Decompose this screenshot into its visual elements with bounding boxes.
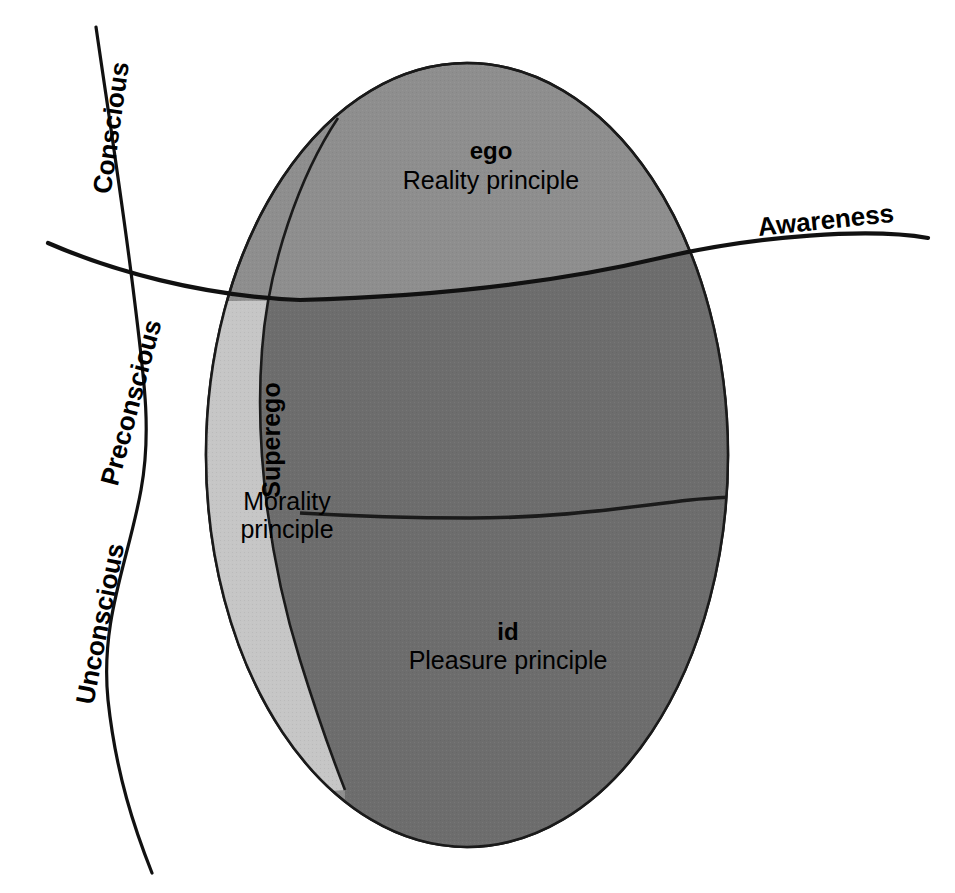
psyche-diagram-root: Conscious Preconscious Unconscious Aware… <box>0 0 955 893</box>
label-ego-name: ego <box>470 137 513 164</box>
label-id-name: id <box>497 618 518 645</box>
label-ego-principle: Reality principle <box>403 166 579 194</box>
label-superego-name: Superego <box>257 382 285 497</box>
label-unconscious: Unconscious <box>70 541 131 707</box>
label-id-principle: Pleasure principle <box>409 646 608 674</box>
diagram-canvas: Conscious Preconscious Unconscious Aware… <box>0 0 955 893</box>
label-conscious: Conscious <box>87 60 135 196</box>
label-superego-principle-line2: principle <box>240 515 333 543</box>
label-preconscious: Preconscious <box>94 316 167 488</box>
psyche-ellipse-group <box>0 0 955 893</box>
label-superego-principle-line1: Morality <box>243 487 331 515</box>
